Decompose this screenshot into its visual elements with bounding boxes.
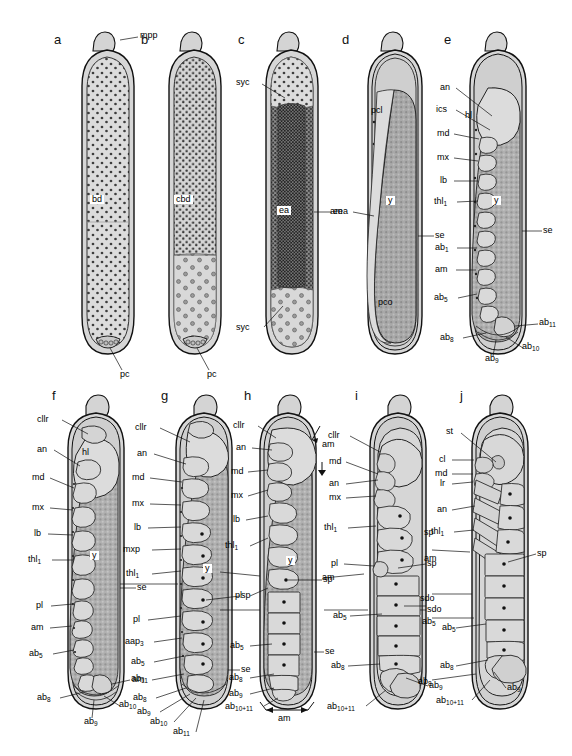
label-thl1: thl1	[324, 523, 337, 532]
label-ab1011: ab10+11	[225, 702, 253, 711]
label-ab1: ab1	[435, 243, 449, 252]
embryonic-anlage	[278, 104, 305, 289]
label-am: am	[132, 675, 145, 684]
label-md: md	[132, 473, 145, 482]
label-j-ab8-left: ab8	[418, 677, 432, 686]
label-am: am	[435, 265, 448, 274]
panel-letter-i: i	[355, 388, 358, 403]
label-j-sdo-left: sdo	[420, 594, 435, 603]
label-pl: pl	[133, 615, 140, 624]
label-cllr: cllr	[37, 415, 49, 424]
label-y: y	[203, 564, 212, 573]
micropylar-papilla-shape	[180, 32, 202, 51]
stomodeum	[492, 455, 505, 469]
clypeolabrum	[82, 426, 106, 443]
label-md: md	[329, 457, 342, 466]
label-md: md	[437, 129, 450, 138]
label-cl: cl	[439, 455, 446, 464]
arrowhead	[301, 707, 308, 713]
label-thl1: thl1	[28, 555, 41, 564]
label-cllr: cllr	[135, 423, 147, 432]
micropylar-papilla-shape	[490, 395, 513, 415]
label-hl: hl	[82, 448, 89, 457]
label-am: am	[330, 207, 343, 216]
abdominal-segments	[377, 576, 420, 675]
label-ab11: ab11	[173, 727, 190, 736]
micropylar-papilla-shape	[485, 32, 507, 51]
head-lobe	[477, 88, 521, 146]
label-an: an	[137, 449, 147, 458]
label-an: an	[329, 479, 339, 488]
label-lb: lb	[233, 515, 240, 524]
pole-cell	[114, 340, 118, 344]
label-ea: ea	[277, 206, 291, 215]
pole-cell	[196, 341, 200, 345]
panel-letter-e: e	[444, 32, 451, 47]
label-aap3: aap3	[125, 637, 144, 646]
pole-cell	[191, 341, 195, 345]
label-pl: pl	[235, 591, 242, 600]
label-pco: pco	[378, 298, 393, 307]
label-ab11: ab11	[539, 318, 556, 327]
label-lr: lr	[440, 479, 445, 488]
panel-letter-g: g	[161, 388, 168, 403]
pole-cell	[109, 341, 113, 345]
label-st: st	[446, 427, 453, 436]
syncytium-posterior	[271, 287, 313, 347]
panel-letter-b: b	[141, 32, 148, 47]
label-i-sp-right: sp	[424, 528, 434, 537]
label-lb: lb	[34, 529, 41, 538]
panel-letter-d: d	[342, 32, 349, 47]
figure-root: a mpp bd pc b cbd pc c syc syc ea	[0, 0, 572, 756]
label-bd: bd	[90, 195, 104, 204]
label-md: md	[32, 473, 45, 482]
label-pc: pc	[120, 370, 130, 379]
label-ab5: ab5	[333, 611, 347, 620]
pole-cell	[201, 340, 205, 344]
label-ab5: ab5	[131, 657, 145, 666]
micropylar-papilla-shape	[93, 32, 115, 51]
label-ab9: ab9	[229, 689, 243, 698]
label-ab9: ab9	[137, 707, 151, 716]
label-y: y	[492, 196, 501, 205]
label-lb: lb	[134, 523, 141, 532]
panel-letter-h: h	[244, 388, 251, 403]
label-am-bottom: am	[278, 714, 291, 723]
pole-cell	[99, 340, 103, 344]
arrowhead	[266, 707, 273, 713]
label-ab1011: ab10+11	[327, 702, 355, 711]
label-y: y	[386, 196, 395, 205]
label-an: an	[437, 505, 447, 514]
leader-sp-left	[432, 550, 470, 552]
label-ab8: ab8	[133, 693, 147, 702]
label-ab10: ab10	[522, 342, 539, 351]
label-an: an	[236, 443, 246, 452]
label-ab8: ab8	[37, 693, 51, 702]
label-ab1011: ab10+11	[436, 696, 464, 705]
leader-sp-left	[220, 572, 260, 576]
label-ab8: ab8	[440, 661, 454, 670]
label-j-ab5-left: ab5	[422, 617, 436, 626]
label-ab5: ab5	[29, 649, 43, 658]
label-ab8: ab8	[229, 673, 243, 682]
label-an: an	[37, 445, 47, 454]
micropylar-papilla-shape	[86, 395, 109, 415]
proleg	[373, 562, 388, 577]
label-mx: mx	[132, 499, 144, 508]
label-thl1: thl1	[126, 569, 139, 578]
panel-j: j st cl md lr an thl1 sp ab5 ab8 ab9 ab1…	[428, 388, 572, 736]
label-pl: pl	[36, 601, 43, 610]
label-y: y	[286, 556, 295, 565]
panel-letter-c: c	[238, 32, 245, 47]
label-y: y	[90, 551, 99, 560]
label-an: an	[440, 83, 450, 92]
micropylar-papilla-shape	[277, 32, 299, 51]
leader-thl1	[454, 530, 474, 532]
label-i-am-right: am	[322, 573, 335, 582]
label-ab5: ab5	[442, 623, 456, 632]
posterior-blastoderm-region	[174, 254, 216, 348]
label-cbd: cbd	[174, 195, 193, 204]
label-cllr: cllr	[328, 431, 340, 440]
micropylar-papilla-shape	[278, 395, 301, 415]
label-mx: mx	[32, 503, 44, 512]
